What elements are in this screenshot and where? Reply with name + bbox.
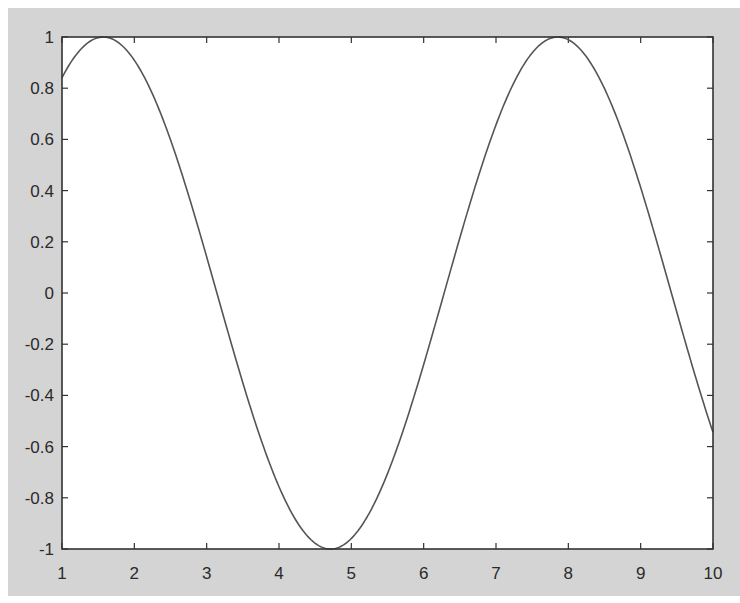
x-tick-label: 1 [57,564,66,583]
y-tick-label: 1 [45,28,54,47]
y-tick-label: -0.4 [25,386,54,405]
sine-chart: 12345678910 10.80.60.40.20-0.2-0.4-0.6-0… [0,0,740,603]
x-tick-label: 3 [202,564,211,583]
x-tick-label: 10 [704,564,723,583]
x-tick-label: 6 [419,564,428,583]
y-tick-label: -0.6 [25,438,54,457]
y-tick-label: 0 [45,284,54,303]
x-tick-label: 9 [636,564,645,583]
x-axis-tick-labels: 12345678910 [57,564,722,583]
y-tick-label: -0.2 [25,335,54,354]
y-tick-label: 0.6 [30,130,54,149]
x-tick-label: 7 [491,564,500,583]
x-tick-label: 8 [564,564,573,583]
y-tick-label: -1 [39,540,54,559]
y-axis-tick-labels: 10.80.60.40.20-0.2-0.4-0.6-0.8-1 [25,28,54,559]
y-tick-label: 0.8 [30,79,54,98]
x-tick-label: 5 [347,564,356,583]
x-tick-label: 2 [130,564,139,583]
y-tick-label: 0.4 [30,182,54,201]
x-tick-label: 4 [274,564,283,583]
y-tick-label: -0.8 [25,489,54,508]
y-tick-label: 0.2 [30,233,54,252]
